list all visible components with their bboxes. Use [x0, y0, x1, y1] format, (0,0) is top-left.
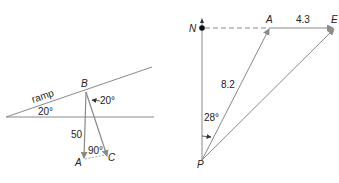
length-ae-label: 4.3	[296, 14, 310, 25]
length-pa-label: 8.2	[221, 79, 235, 90]
bearing-angle-label: 28°	[204, 112, 219, 123]
point-c-label: C	[108, 152, 116, 163]
north-arrow-icon	[200, 18, 204, 23]
north-point-icon	[199, 25, 205, 31]
point-a-label: A	[265, 14, 273, 25]
right-angle-label: 90°	[88, 145, 103, 156]
angle-arrow-icon	[92, 100, 100, 101]
north-label: N	[189, 23, 197, 34]
diagram-canvas: ramp 20° B 20° 50 90° A C N A 4.3 E 8.2 …	[0, 0, 339, 183]
angle-at-b-label: 20°	[100, 95, 115, 106]
point-e-label: E	[331, 14, 338, 25]
bearing-arc-icon	[202, 136, 211, 137]
ramp-label: ramp	[30, 87, 56, 105]
vector-pa	[202, 29, 269, 160]
length-ba-label: 50	[71, 129, 83, 140]
bearing-diagram: N A 4.3 E 8.2 28° P	[189, 14, 338, 170]
ramp-angle-label: 20°	[38, 106, 53, 117]
ramp-diagram: ramp 20° B 20° 50 90° A C	[6, 67, 154, 168]
point-a-label: A	[74, 157, 82, 168]
point-b-label: B	[81, 78, 88, 89]
ramp-line	[6, 67, 152, 117]
vector-ba	[84, 92, 86, 158]
vector-pe	[202, 29, 334, 160]
point-p-label: P	[197, 159, 204, 170]
